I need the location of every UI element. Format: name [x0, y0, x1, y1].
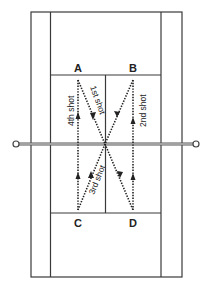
shot-path-1st-lower — [105, 144, 133, 210]
shot-label-3rd: 3rd shot — [87, 163, 108, 196]
position-label-b: B — [129, 62, 137, 74]
position-label-a: A — [74, 62, 82, 74]
position-label-d: D — [129, 217, 137, 229]
arrow-up-icon — [76, 172, 81, 179]
arrow-down-icon — [117, 171, 123, 178]
shot-label-2nd: 2nd shot — [138, 94, 148, 127]
tennis-court-diagram: A B C D 1st shot 2nd shot 3rd shot 4th s… — [0, 0, 213, 289]
arrow-up-icon — [131, 173, 136, 180]
arrow-down-icon — [114, 111, 120, 117]
arrow-up-icon — [131, 117, 136, 124]
shot-label-4th: 4th shot — [66, 95, 76, 126]
right-net-post-icon — [193, 141, 199, 147]
left-net-post-icon — [13, 141, 19, 147]
position-label-c: C — [74, 217, 82, 229]
arrow-up-icon — [76, 112, 81, 119]
